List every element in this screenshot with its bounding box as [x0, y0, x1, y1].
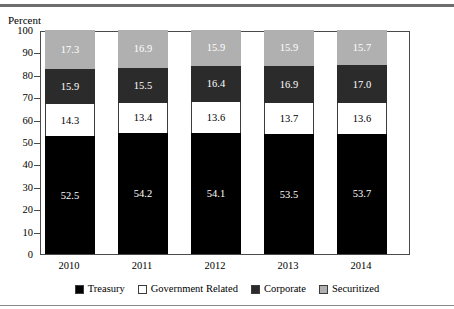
legend-item-securitized[interactable]: Securitized: [319, 283, 379, 295]
bar-segment-treasury: 54.2: [118, 133, 168, 254]
bar-segment-corporate: 16.4: [191, 66, 241, 103]
bar-segment-value-label: 15.5: [134, 80, 152, 91]
y-axis-tick-label: 90: [23, 47, 34, 58]
bar-segment-government-related: 13.7: [264, 103, 314, 134]
bar-segment-value-label: 53.7: [353, 188, 371, 199]
x-axis-tick-label: 2013: [253, 260, 323, 272]
legend-swatch-icon: [319, 285, 328, 294]
bar-2010: 17.315.914.352.5: [45, 30, 95, 254]
bar-segment-value-label: 16.9: [280, 79, 298, 90]
legend-item-label: Treasury: [88, 283, 125, 295]
bar-segment-value-label: 15.7: [353, 42, 371, 53]
bar-segment-value-label: 15.9: [61, 81, 79, 92]
bar-segment-value-label: 13.6: [353, 113, 371, 124]
legend-item-label: Securitized: [332, 283, 379, 295]
legend-swatch-icon: [75, 285, 84, 294]
top-rule: [0, 4, 454, 7]
bar-segment-value-label: 54.1: [207, 188, 225, 199]
bar-segment-value-label: 15.9: [280, 42, 298, 53]
bar-segment-government-related: 14.3: [45, 104, 95, 136]
bar-2013: 15.916.913.753.5: [264, 30, 314, 254]
y-axis-tick-label: 10: [23, 227, 34, 238]
y-axis-tick-label: 40: [23, 159, 34, 170]
bar-segment-value-label: 15.9: [207, 42, 225, 53]
x-axis-tick-label: 2011: [107, 260, 177, 272]
y-axis-tick-label: 70: [23, 92, 34, 103]
bar-segment-government-related: 13.4: [118, 103, 168, 133]
bar-segment-corporate: 15.9: [45, 69, 95, 105]
bottom-rule: [0, 305, 454, 306]
bar-segment-value-label: 16.9: [134, 43, 152, 54]
x-axis-tick-label: 2010: [34, 260, 104, 272]
y-axis-tick-label: 20: [23, 204, 34, 215]
bar-segment-securitized: 16.9: [118, 30, 168, 68]
y-axis-tick-label: 100: [17, 25, 33, 36]
legend-item-label: Corporate: [264, 283, 306, 295]
legend-swatch-icon: [138, 285, 147, 294]
y-axis-tick-label: 80: [23, 70, 34, 81]
y-axis-tick-label: 0: [28, 249, 33, 260]
bar-2012: 15.916.413.654.1: [191, 30, 241, 254]
x-axis-tick-label: 2012: [180, 260, 250, 272]
bar-segment-value-label: 53.5: [280, 189, 298, 200]
bar-segment-treasury: 52.5: [45, 136, 95, 254]
bar-segment-corporate: 15.5: [118, 68, 168, 103]
bar-segment-value-label: 52.5: [61, 190, 79, 201]
y-axis-tick-label: 50: [23, 137, 34, 148]
bar-segment-value-label: 13.4: [134, 112, 152, 123]
bar-segment-value-label: 13.7: [280, 113, 298, 124]
bar-segment-corporate: 16.9: [264, 66, 314, 104]
y-axis-tick-label: 60: [23, 115, 34, 126]
legend-item-corporate[interactable]: Corporate: [251, 283, 306, 295]
bar-segment-treasury: 53.5: [264, 134, 314, 254]
plot-area: 17.315.914.352.516.915.513.454.215.916.4…: [40, 31, 410, 255]
bar-2011: 16.915.513.454.2: [118, 30, 168, 254]
x-axis-tick-label: 2014: [326, 260, 396, 272]
bar-segment-treasury: 53.7: [337, 134, 387, 254]
legend-item-treasury[interactable]: Treasury: [75, 283, 125, 295]
bar-segment-government-related: 13.6: [337, 103, 387, 133]
bar-segment-value-label: 14.3: [61, 115, 79, 126]
bar-segment-securitized: 15.7: [337, 30, 387, 65]
bar-segment-value-label: 16.4: [207, 78, 225, 89]
bar-segment-government-related: 13.6: [191, 102, 241, 132]
bar-segment-value-label: 13.6: [207, 112, 225, 123]
bar-segment-securitized: 17.3: [45, 30, 95, 69]
bar-segment-value-label: 54.2: [134, 188, 152, 199]
bar-segment-securitized: 15.9: [191, 30, 241, 66]
legend-item-government-related[interactable]: Government Related: [138, 283, 238, 295]
figure: Percent 0102030405060708090100 17.315.91…: [0, 0, 454, 309]
chart-legend: TreasuryGovernment RelatedCorporateSecur…: [0, 283, 454, 295]
bar-segment-corporate: 17.0: [337, 65, 387, 103]
bar-segment-value-label: 17.3: [61, 44, 79, 55]
legend-item-label: Government Related: [151, 283, 238, 295]
bar-segment-value-label: 17.0: [353, 79, 371, 90]
bar-2014: 15.717.013.653.7: [337, 30, 387, 254]
y-axis-tick-label: 30: [23, 182, 34, 193]
legend-swatch-icon: [251, 285, 260, 294]
bar-segment-treasury: 54.1: [191, 133, 241, 254]
bar-segment-securitized: 15.9: [264, 30, 314, 66]
